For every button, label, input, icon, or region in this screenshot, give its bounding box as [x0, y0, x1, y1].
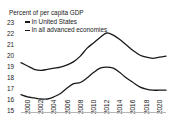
series-line-advanced-economies — [21, 67, 166, 99]
x-axis-line — [21, 112, 166, 113]
series-line-united-states — [21, 33, 166, 70]
series-lines — [0, 0, 169, 137]
plot-area — [0, 0, 169, 137]
chart-container: Percent of per capita GDP In United Stat… — [0, 0, 169, 137]
